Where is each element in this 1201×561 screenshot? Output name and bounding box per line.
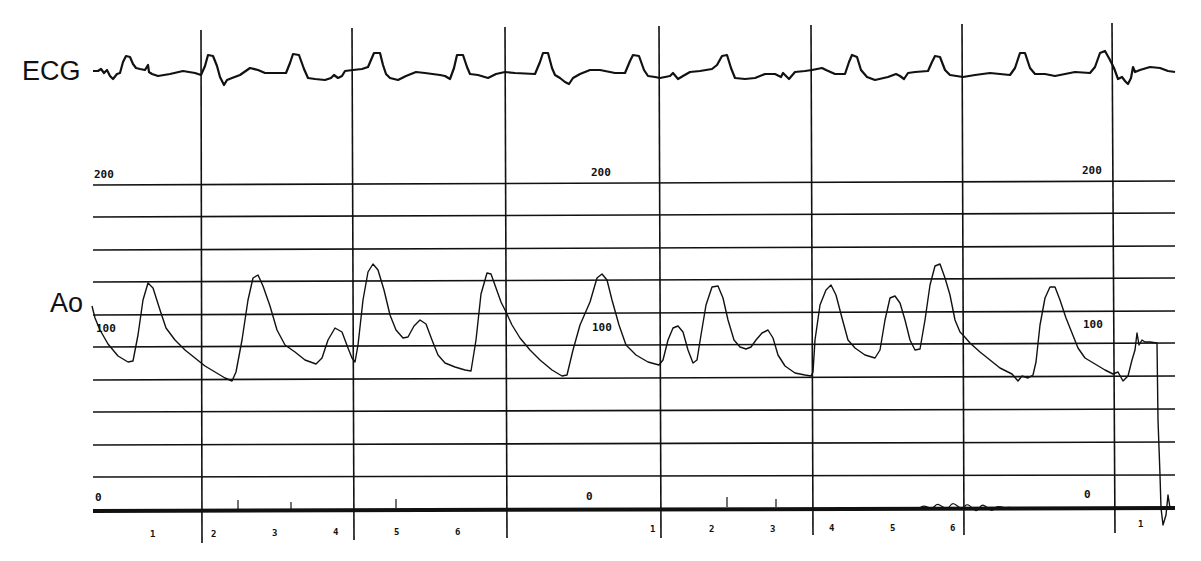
beat-label: 5 <box>394 527 399 537</box>
scale-label-200-left: 200 <box>94 168 114 181</box>
scale-label-200-right: 200 <box>1082 164 1102 177</box>
aortic-pressure-trace <box>92 264 1170 525</box>
scale-label-0-middle: 0 <box>586 490 593 503</box>
beat-label: 3 <box>770 524 775 534</box>
beat-label: 6 <box>455 527 460 537</box>
beat-label: 2 <box>211 529 216 539</box>
horizontal-gridlines <box>93 181 1175 477</box>
beat-label: 1 <box>150 529 155 539</box>
beat-label: 4 <box>333 527 339 537</box>
beat-label: 2 <box>709 524 714 534</box>
scale-label-0-right: 0 <box>1084 488 1091 501</box>
scale-label-100-right: 100 <box>1083 318 1103 331</box>
scale-label-100-middle: 100 <box>592 321 612 334</box>
beat-label: 3 <box>272 528 277 538</box>
zero-baseline <box>93 508 1175 511</box>
vertical-timelines <box>201 23 1115 543</box>
scale-label-100-left: 100 <box>96 322 116 335</box>
beat-label: 6 <box>950 523 955 533</box>
pressure-chart: 200 100 0 200 100 0 200 100 0 1 2 3 4 5 … <box>0 0 1201 561</box>
beat-label: 1 <box>650 524 655 534</box>
beat-label: 4 <box>829 523 835 533</box>
scale-label-200-middle: 200 <box>591 166 611 179</box>
scale-label-0-left: 0 <box>95 491 102 504</box>
beat-label: 5 <box>890 523 895 533</box>
beat-label: 1 <box>1138 519 1143 529</box>
ecg-trace <box>93 51 1175 85</box>
